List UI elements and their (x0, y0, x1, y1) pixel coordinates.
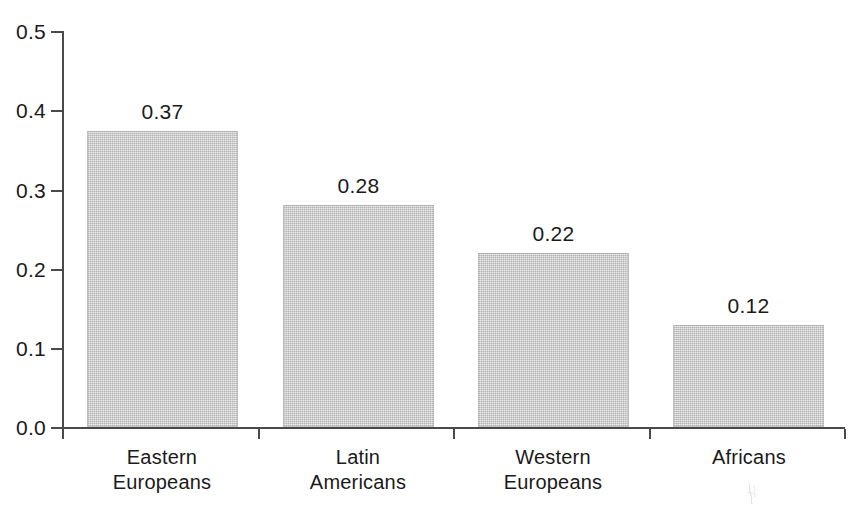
x-axis-tick-4 (844, 429, 846, 439)
x-axis-category-africans: Africans (651, 445, 847, 470)
bar-eastern-europeans[interactable] (87, 131, 238, 427)
plot-area: 0.5 0.4 0.3 0.2 0.1 0.0 0.37 0.28 0.22 0… (0, 0, 868, 513)
y-axis-label-0.0: 0.0 (0, 417, 46, 438)
x-axis-category-western-europeans: Western Europeans (455, 445, 651, 495)
category-line-1: Latin (260, 445, 456, 470)
y-axis-tick-0.2 (51, 269, 62, 271)
y-axis-label-0.5: 0.5 (0, 21, 46, 42)
x-axis-tick-0 (62, 429, 64, 439)
y-axis-label-0.1: 0.1 (0, 338, 46, 359)
bar-latin-americans[interactable] (283, 205, 434, 427)
y-axis-tick-0.0 (51, 427, 62, 429)
y-axis-tick-0.1 (51, 348, 62, 350)
bar-value-eastern-europeans: 0.37 (87, 101, 238, 122)
bar-value-latin-americans: 0.28 (283, 175, 434, 196)
y-axis-label-0.4: 0.4 (0, 100, 46, 121)
bar-value-western-europeans: 0.22 (478, 223, 629, 244)
y-axis-tick-0.5 (51, 31, 62, 33)
x-axis-category-latin-americans: Latin Americans (260, 445, 456, 495)
category-line-1: Eastern (64, 445, 260, 470)
x-axis-tick-2 (453, 429, 455, 439)
scan-smudge-artifact (742, 482, 764, 506)
bar-value-africans: 0.12 (673, 295, 824, 316)
bar-chart: 0.5 0.4 0.3 0.2 0.1 0.0 0.37 0.28 0.22 0… (0, 0, 868, 513)
y-axis-line (62, 31, 64, 429)
y-axis-label-0.2: 0.2 (0, 259, 46, 280)
x-axis-tick-3 (649, 429, 651, 439)
category-line-1: Western (455, 445, 651, 470)
category-line-1: Africans (651, 445, 847, 470)
x-axis-tick-1 (258, 429, 260, 439)
y-axis-tick-0.3 (51, 190, 62, 192)
x-axis-category-eastern-europeans: Eastern Europeans (64, 445, 260, 495)
category-line-2: Europeans (455, 470, 651, 495)
y-axis-label-0.3: 0.3 (0, 180, 46, 201)
bar-africans[interactable] (673, 325, 824, 427)
bar-western-europeans[interactable] (478, 253, 629, 427)
category-line-2: Europeans (64, 470, 260, 495)
category-line-2: Americans (260, 470, 456, 495)
y-axis-tick-0.4 (51, 110, 62, 112)
